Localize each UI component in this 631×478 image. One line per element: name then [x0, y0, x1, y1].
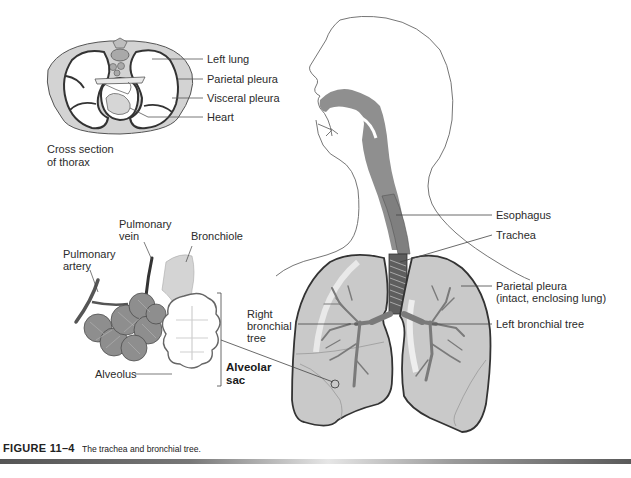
- label-alveolus: Alveolus: [95, 368, 137, 380]
- figure-number: FIGURE 11–4: [3, 442, 75, 454]
- label-alveolar-sac: Alveolar sac: [226, 361, 271, 387]
- thorax-cross-section: [47, 38, 203, 134]
- label-parietal-pleura-main: Parietal pleura (intact, enclosing lung): [496, 280, 606, 304]
- aorta: [110, 64, 117, 71]
- label-left-bronchial-tree: Left bronchial tree: [496, 318, 584, 330]
- spine: [113, 38, 127, 48]
- pulmonary-artery-branch: [92, 302, 128, 305]
- alveolar-sac: [162, 293, 220, 368]
- lips: [318, 124, 338, 136]
- label-visceral-pleura: Visceral pleura: [207, 92, 280, 104]
- label-heart: Heart: [207, 111, 234, 123]
- figure-caption-text: The trachea and bronchial tree.: [82, 443, 201, 454]
- leader-pulmonary-vein: [144, 242, 152, 260]
- tongue-gap: [334, 128, 360, 150]
- label-cross-section-title: Cross section of thorax: [47, 143, 114, 169]
- label-esophagus: Esophagus: [496, 209, 551, 221]
- label-bronchiole: Bronchiole: [191, 230, 243, 242]
- vertebra: [111, 49, 129, 61]
- label-parietal-pleura-section: Parietal pleura: [207, 73, 278, 85]
- label-left-lung: Left lung: [207, 53, 249, 65]
- chin-neck-outline: [276, 120, 359, 276]
- pulmonary-vein: [146, 258, 152, 296]
- label-pulmonary-vein: Pulmonary vein: [119, 218, 172, 242]
- label-pulmonary-artery: Pulmonary artery: [63, 248, 116, 272]
- label-trachea: Trachea: [496, 229, 536, 241]
- anatomy-illustration: [0, 0, 631, 478]
- vessel: [118, 63, 125, 70]
- figure-caption: FIGURE 11–4 The trachea and bronchial tr…: [3, 442, 214, 454]
- caption-divider: [0, 459, 631, 464]
- esophagus-section: [114, 70, 120, 76]
- label-right-bronchial-tree: Right bronchial tree: [247, 308, 292, 344]
